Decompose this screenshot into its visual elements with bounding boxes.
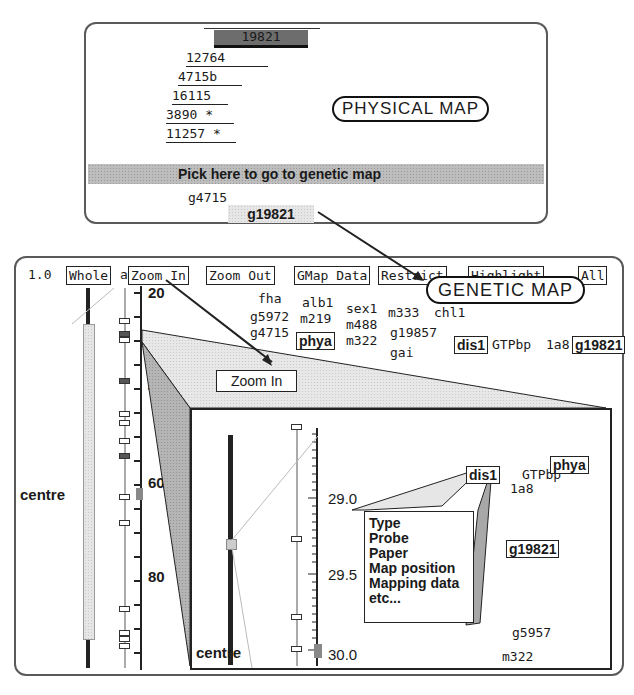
clone-11257[interactable]: 11257 * [166,127,236,143]
zoom-in-callout: Zoom In [216,370,297,392]
marker-1a8[interactable]: 1a8 [546,338,569,352]
marker-m333[interactable]: m333 [388,306,419,320]
popup-item-mapping-data[interactable]: Mapping data [369,576,473,591]
popup-item-probe[interactable]: Probe [369,531,473,546]
marker-g19821[interactable]: g19821 [572,336,625,354]
inset-centromere-label: centre [196,644,241,661]
marker-g4715[interactable]: g4715 [188,190,227,205]
clone-4715b[interactable]: 4715b [178,70,242,86]
marker-alb1[interactable]: alb1 [302,296,333,310]
go-to-genetic-map-button[interactable]: Pick here to go to genetic map [88,164,544,184]
clone-19821-selected[interactable]: 19821 [214,30,308,48]
physical-map-window: 19821 12764 4715b 16115 3890 * 11257 * P… [84,22,548,224]
genetic-map-window: 1.0 Whole a Zoom In Zoom Out GMap Data R… [14,256,624,676]
popup-item-map-position[interactable]: Map position [369,561,473,576]
marker-fha[interactable]: fha [258,292,281,306]
inset-marker-g5957[interactable]: g5957 [512,626,551,640]
marker-info-popup: Type Probe Paper Map position Mapping da… [364,511,474,623]
marker-g19857[interactable]: g19857 [390,326,437,340]
clone-16115[interactable]: 16115 [172,89,228,105]
inset-axis-label-29.5: 29.5 [328,566,357,583]
popup-item-paper[interactable]: Paper [369,546,473,561]
popup-item-type[interactable]: Type [369,516,473,531]
marker-m322[interactable]: m322 [346,334,377,348]
physical-map-title: PHYSICAL MAP [332,96,489,122]
marker-g19821-selected[interactable]: g19821 [228,205,314,223]
marker-phya[interactable]: phya [296,332,335,350]
marker-sex1[interactable]: sex1 [346,302,377,316]
marker-m488[interactable]: m488 [346,318,377,332]
clone-3890[interactable]: 3890 * [166,108,234,124]
marker-g4715[interactable]: g4715 [250,326,289,340]
inset-axis-label-30.0: 30.0 [328,646,357,663]
clone-12764[interactable]: 12764 [186,51,268,67]
marker-dis1[interactable]: dis1 [454,336,488,354]
marker-m219[interactable]: m219 [300,312,331,326]
inset-marker-phya[interactable]: phya [550,456,589,474]
marker-gai[interactable]: gai [390,346,413,360]
inset-axis-label-29.0: 29.0 [328,490,357,507]
marker-g5972[interactable]: g5972 [250,310,289,324]
inset-marker-1a8[interactable]: 1a8 [510,482,533,496]
inset-slider-handle[interactable] [314,644,322,658]
marker-chl1[interactable]: chl1 [434,306,465,320]
inset-marker-dis1[interactable]: dis1 [466,466,500,484]
marker-GTPbp[interactable]: GTPbp [492,338,531,352]
inset-marker-m322[interactable]: m322 [502,650,533,664]
popup-item-etc[interactable]: etc... [369,591,473,606]
inset-marker-g19821[interactable]: g19821 [506,540,559,558]
